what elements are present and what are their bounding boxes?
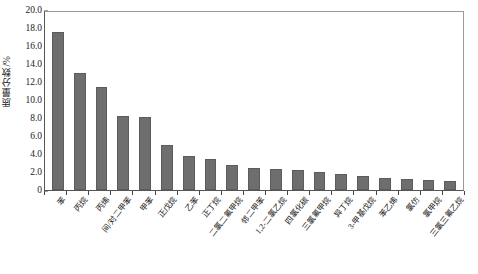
x-tick-label: 苯 <box>55 195 67 207</box>
y-tick-label: 8.0 <box>16 114 42 124</box>
x-tick-label: 丙烯 <box>94 195 111 213</box>
bar-slot <box>178 12 200 190</box>
bar-slot <box>439 12 461 190</box>
x-tick-mark <box>110 191 111 195</box>
y-tick-label: 20.0 <box>16 6 42 16</box>
bar-slot <box>330 12 352 190</box>
x-tick-label: 乙苯 <box>183 195 200 213</box>
x-tick-label: 正丁烷 <box>200 195 222 219</box>
y-tick-label: 0 <box>16 186 42 196</box>
y-tick-label: 14.0 <box>16 60 42 70</box>
x-tick-mark <box>353 191 354 195</box>
bar <box>314 172 326 190</box>
bar-slot <box>352 12 374 190</box>
bar-slot <box>418 12 440 190</box>
bar <box>423 180 435 190</box>
x-tick-mark <box>287 191 288 195</box>
bar <box>335 174 347 190</box>
bar <box>205 159 217 191</box>
bar <box>52 32 64 190</box>
x-tick-mark <box>331 191 332 195</box>
bar <box>117 116 129 190</box>
x-tick-mark <box>221 191 222 195</box>
x-tick-label: 正戊烷 <box>156 195 178 219</box>
x-tick-label: 甲苯 <box>139 195 156 213</box>
x-tick-mark <box>88 191 89 195</box>
bar-slot <box>69 12 91 190</box>
x-tick-mark <box>66 191 67 195</box>
bar-slot <box>309 12 331 190</box>
x-tick-mark <box>376 191 377 195</box>
x-axis-tick-labels: 苯丙烷丙烯间/对二甲苯甲苯正戊烷乙苯正丁烷二氯二氟甲烷邻二甲苯1,2-二氯乙烷四… <box>44 195 464 274</box>
x-tick-mark <box>309 191 310 195</box>
x-tick-mark <box>199 191 200 195</box>
y-tick-label: 10.0 <box>16 96 42 106</box>
x-tick-label: 氯甲烷 <box>421 195 443 219</box>
y-axis-tick-labels: 02.04.06.08.010.012.014.016.018.020.0 <box>14 11 42 191</box>
x-tick-mark <box>132 191 133 195</box>
x-tick-mark <box>442 191 443 195</box>
bar-slot <box>47 12 69 190</box>
y-tick-label: 12.0 <box>16 78 42 88</box>
bar <box>248 168 260 190</box>
bar-slot <box>396 12 418 190</box>
plot-area <box>44 11 464 191</box>
x-tick-mark <box>177 191 178 195</box>
y-tick-label: 18.0 <box>16 24 42 34</box>
bar <box>161 145 173 190</box>
bar-slot <box>200 12 222 190</box>
bar <box>401 179 413 190</box>
x-tick-mark <box>44 191 45 195</box>
bar <box>226 165 238 190</box>
y-tick-label: 16.0 <box>16 42 42 52</box>
x-tick-mark <box>265 191 266 195</box>
bar-slot <box>112 12 134 190</box>
x-tick-label: 苯乙烯 <box>377 195 399 219</box>
x-tick-label: 氯仿 <box>404 195 421 213</box>
bar <box>270 169 282 190</box>
bar-chart-figure: 质量分数/% 02.04.06.08.010.012.014.016.018.0… <box>0 0 478 274</box>
x-tick-label: 丙烷 <box>72 195 89 213</box>
bar <box>183 156 195 190</box>
bar-slot <box>221 12 243 190</box>
bar <box>139 117 151 190</box>
bar <box>444 181 456 190</box>
bar-slot <box>374 12 396 190</box>
y-tick-label: 4.0 <box>16 150 42 160</box>
x-tick-label: 异丁烷 <box>333 195 355 219</box>
bars-layer <box>45 12 463 190</box>
y-tick-label: 6.0 <box>16 132 42 142</box>
bar-slot <box>134 12 156 190</box>
bar-slot <box>91 12 113 190</box>
bar-slot <box>156 12 178 190</box>
bar-slot <box>287 12 309 190</box>
y-tick-label: 2.0 <box>16 168 42 178</box>
bar <box>357 176 369 190</box>
x-tick-mark <box>420 191 421 195</box>
bar <box>74 73 86 190</box>
x-tick-mark <box>464 191 465 195</box>
x-tick-mark <box>155 191 156 195</box>
x-tick-mark <box>398 191 399 195</box>
bar-slot <box>265 12 287 190</box>
bar <box>379 178 391 190</box>
bar <box>96 87 108 191</box>
x-tick-mark <box>243 191 244 195</box>
bar <box>292 170 304 190</box>
bar-slot <box>243 12 265 190</box>
